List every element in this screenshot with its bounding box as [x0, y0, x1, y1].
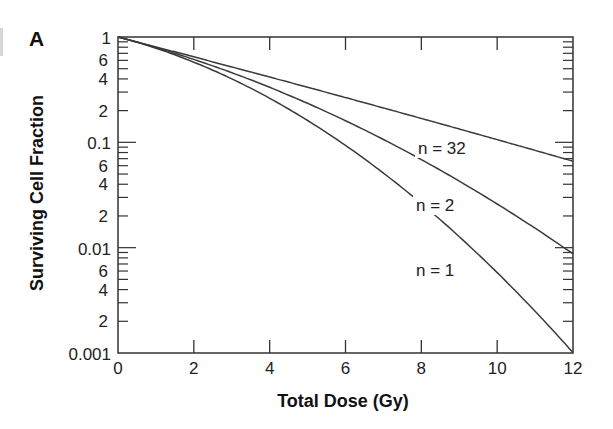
- curves: [118, 37, 573, 353]
- x-tick-label: 8: [417, 359, 426, 378]
- x-tick-label: 10: [488, 359, 507, 378]
- x-tick-label: 4: [265, 359, 274, 378]
- plot-frame: [118, 37, 573, 353]
- plot-area: 02468101224624624610.10.010.001: [68, 29, 582, 378]
- x-tick-label: 12: [564, 359, 583, 378]
- y-minor-tick-label: 4: [99, 70, 108, 89]
- y-minor-tick-label: 4: [99, 175, 108, 194]
- x-tick-label: 0: [113, 359, 122, 378]
- y-major-tick-label: 0.1: [87, 134, 111, 153]
- survival-chart: A 02468101224624624610.10.010.001 n = 32…: [0, 0, 613, 429]
- y-minor-tick-label: 6: [99, 262, 108, 281]
- x-tick-label: 2: [189, 359, 198, 378]
- x-axis-title: Total Dose (Gy): [277, 391, 409, 411]
- y-minor-tick-label: 2: [99, 207, 108, 226]
- y-minor-tick-label: 4: [99, 281, 108, 300]
- y-minor-tick-label: 2: [99, 102, 108, 121]
- y-minor-tick-label: 6: [99, 51, 108, 70]
- y-major-tick-label: 0.001: [68, 345, 111, 364]
- x-tick-label: 6: [341, 359, 350, 378]
- y-axis-title: Surviving Cell Fraction: [27, 95, 47, 291]
- curve-label: n = 32: [418, 139, 466, 158]
- curve-n32: [118, 37, 573, 161]
- curve-n1: [118, 37, 573, 353]
- y-major-tick-label: 1: [102, 29, 111, 48]
- y-minor-tick-label: 6: [99, 157, 108, 176]
- y-major-tick-label: 0.01: [78, 240, 111, 259]
- y-minor-tick-label: 2: [99, 312, 108, 331]
- curve-label: n = 2: [416, 196, 454, 215]
- curve-label: n = 1: [416, 261, 454, 280]
- panel-label: A: [29, 27, 44, 50]
